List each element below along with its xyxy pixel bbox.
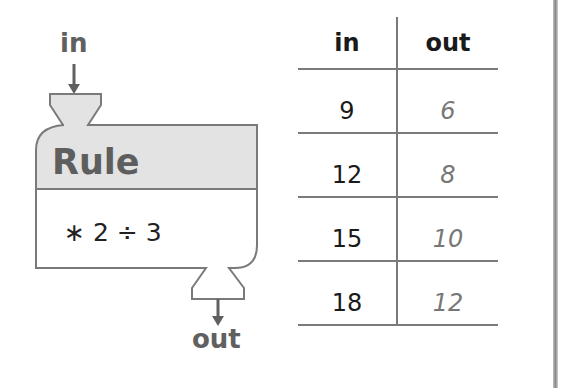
row-4-in: 18 <box>298 289 396 317</box>
page-edge <box>553 0 558 388</box>
header-out: out <box>398 29 498 57</box>
row-2-in: 12 <box>298 161 396 189</box>
row-3-out: 10 <box>398 225 498 253</box>
row-divider <box>298 132 498 134</box>
row-1-out: 6 <box>398 97 498 125</box>
row-2-out: 8 <box>398 161 498 189</box>
row-divider <box>298 196 498 198</box>
table-bottom-line <box>298 324 498 326</box>
row-4-out: 12 <box>398 289 498 317</box>
function-machine: in Rule ∗ 2 ÷ 3 out <box>0 0 290 388</box>
output-label: out <box>192 324 241 354</box>
row-divider <box>298 260 498 262</box>
header-divider <box>298 68 498 70</box>
rule-title: Rule <box>52 142 140 182</box>
rule-expression: ∗ 2 ÷ 3 <box>64 218 162 247</box>
row-1-in: 9 <box>298 97 396 125</box>
function-machine-shape <box>0 0 290 388</box>
row-3-in: 15 <box>298 225 396 253</box>
input-label: in <box>60 28 87 58</box>
header-in: in <box>298 29 396 57</box>
